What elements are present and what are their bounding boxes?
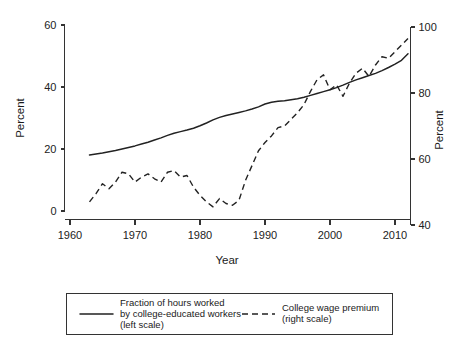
right-ticklabel-80: 80 bbox=[419, 87, 431, 99]
left-axis-title: Percent bbox=[14, 97, 26, 137]
series-line-fraction-hours-worked bbox=[90, 54, 409, 155]
series-line-college-wage-premium bbox=[90, 39, 409, 207]
x-ticklabel-1980: 1980 bbox=[188, 229, 212, 241]
right-ticklabel-60: 60 bbox=[419, 153, 431, 165]
x-axis-title: Year bbox=[215, 254, 238, 266]
x-axis-ticks: 196019701980199020002010 bbox=[58, 220, 407, 242]
right-axis-title: Percent bbox=[433, 109, 445, 149]
x-ticklabel-2000: 2000 bbox=[318, 229, 342, 241]
left-ticklabel-0: 0 bbox=[50, 205, 56, 217]
x-ticklabel-1990: 1990 bbox=[253, 229, 277, 241]
left-ticklabel-40: 40 bbox=[44, 81, 56, 93]
series-layer bbox=[90, 39, 409, 207]
x-ticklabel-1960: 1960 bbox=[58, 229, 82, 241]
left-ticklabel-60: 60 bbox=[44, 19, 56, 31]
left-axis-ticks: 0204060 bbox=[44, 19, 64, 217]
x-ticklabel-2010: 2010 bbox=[383, 229, 407, 241]
legend-label-solid-line3: (left scale) bbox=[120, 319, 164, 330]
legend-label-dashed-line1: College wage premium bbox=[282, 302, 379, 313]
x-ticklabel-1970: 1970 bbox=[123, 229, 147, 241]
left-ticklabel-20: 20 bbox=[44, 143, 56, 155]
right-ticklabel-100: 100 bbox=[419, 21, 437, 33]
chart-figure: 0204060 406080100 1960197019801990200020… bbox=[0, 0, 464, 350]
legend-label-dashed-line2: (right scale) bbox=[282, 313, 332, 324]
legend-label-solid-line2: by college-educated workers bbox=[120, 308, 241, 319]
right-ticklabel-40: 40 bbox=[419, 219, 431, 231]
legend-label-solid-line1: Fraction of hours worked bbox=[120, 297, 225, 308]
